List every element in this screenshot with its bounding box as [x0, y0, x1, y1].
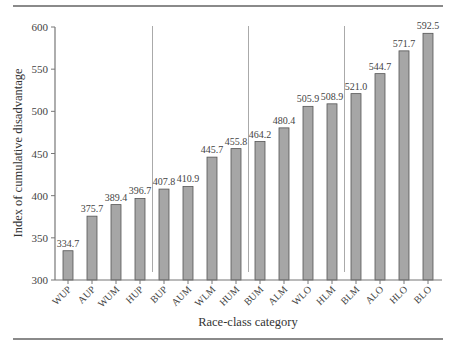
x-tick-label: ALO [363, 284, 385, 306]
y-tick-label: 500 [32, 105, 49, 117]
x-axis-title: Race-class category [198, 315, 298, 329]
y-tick-label: 600 [32, 21, 49, 33]
y-tick-label: 400 [32, 190, 49, 202]
y-axis: 300350400450500550600 [32, 21, 56, 286]
bar-value-label: 389.4 [105, 192, 128, 203]
bar [87, 216, 97, 280]
bar-chart: 300350400450500550600 334.7375.7389.4396… [0, 0, 454, 341]
x-tick-label: HLM [314, 284, 338, 308]
x-tick-label: WLM [192, 284, 217, 309]
x-tick-label: BUM [242, 284, 266, 308]
x-tick-label: AUM [169, 284, 193, 308]
x-tick-label: HUM [217, 284, 241, 308]
bar [375, 74, 385, 280]
x-tick-label: HLO [387, 284, 409, 306]
group-separators [153, 26, 345, 272]
x-tick-label: BLM [338, 284, 361, 307]
bar-value-label: 544.7 [369, 61, 392, 72]
bar-value-label: 334.7 [57, 238, 80, 249]
bar-value-label: 571.7 [393, 38, 416, 49]
x-tick-label: WUM [96, 284, 122, 310]
x-tick-label: WLO [290, 284, 314, 308]
bar [351, 94, 361, 280]
bar [111, 205, 121, 280]
bar-value-label: 508.9 [321, 91, 344, 102]
bar [207, 157, 217, 280]
x-axis: WUPAUPWUMHUPBUPAUMWLMHUMBUMALMWLOHLMBLMA… [50, 280, 442, 309]
x-tick-label: WUP [50, 283, 74, 307]
bar-value-label: 592.5 [417, 20, 440, 31]
bar [303, 106, 313, 280]
bar [231, 149, 241, 280]
bar-value-label: 464.2 [249, 129, 272, 140]
x-tick-label: BLO [411, 284, 433, 306]
bar-value-label: 445.7 [201, 144, 224, 155]
y-tick-label: 550 [32, 63, 49, 75]
bar [279, 128, 289, 280]
bar [399, 51, 409, 280]
y-tick-label: 350 [32, 232, 49, 244]
bar [183, 186, 193, 280]
bar [63, 251, 73, 280]
bar-value-label: 480.4 [273, 115, 296, 126]
bar-value-label: 521.0 [345, 81, 368, 92]
bar-value-label: 396.7 [129, 185, 152, 196]
bar [327, 104, 337, 280]
bar-value-label: 375.7 [81, 203, 104, 214]
x-tick-label: BUP [148, 283, 170, 305]
x-tick-label: ALM [266, 284, 290, 308]
bar [423, 33, 433, 280]
x-tick-label: HUP [123, 283, 145, 305]
bar-value-label: 407.8 [153, 176, 176, 187]
y-tick-label: 300 [32, 274, 49, 286]
y-axis-title: Index of cumulative disadvantage [11, 68, 25, 237]
x-tick-label: AUP [75, 283, 97, 305]
bar-value-label: 410.9 [177, 173, 200, 184]
bar-value-label: 505.9 [297, 93, 320, 104]
bar [135, 198, 145, 280]
bar [255, 142, 265, 280]
bar-value-label: 455.8 [225, 136, 248, 147]
y-tick-label: 450 [32, 148, 49, 160]
bar [159, 189, 169, 280]
